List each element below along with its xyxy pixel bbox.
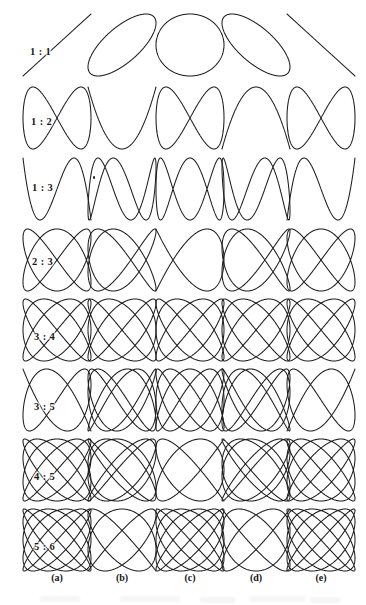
lissajous-curve <box>286 157 356 221</box>
lissajous-cell-r5-b <box>87 298 157 362</box>
lissajous-curve <box>155 508 225 572</box>
ratio-label: 5 : 6 <box>34 541 55 552</box>
curve-path <box>222 158 290 220</box>
lissajous-curve <box>155 228 225 292</box>
curve-path <box>156 229 224 291</box>
lissajous-cell-r7-e <box>286 438 356 502</box>
column-label-b: (b) <box>102 572 142 583</box>
lissajous-cell-r8-c <box>155 508 225 572</box>
ratio-label: 4 : 5 <box>34 471 55 482</box>
curve-path <box>156 299 224 361</box>
lissajous-cell-r1-b <box>87 13 157 77</box>
curve-path <box>222 14 290 76</box>
curve-path <box>156 87 224 149</box>
lissajous-cell-r3-b <box>87 157 157 221</box>
lissajous-curve <box>87 508 157 572</box>
curve-path <box>88 87 156 149</box>
lissajous-cell-r4-b <box>87 228 157 292</box>
lissajous-curve <box>22 298 92 362</box>
curve-path <box>222 229 290 291</box>
curve-path <box>287 369 355 431</box>
curve-path <box>88 509 156 571</box>
page-edge-smudge <box>120 596 180 602</box>
lissajous-curve <box>155 157 225 221</box>
curve-path <box>88 369 156 431</box>
curve-path <box>222 87 290 149</box>
ratio-label: 2 : 3 <box>32 256 53 267</box>
curve-path <box>222 509 290 571</box>
column-label-a: (a) <box>37 572 77 583</box>
curve-path <box>88 299 156 361</box>
lissajous-cell-r7-a <box>22 438 92 502</box>
curve-path <box>287 87 355 149</box>
lissajous-curve <box>155 86 225 150</box>
scan-speck <box>93 176 95 179</box>
lissajous-curve <box>221 508 291 572</box>
lissajous-cell-r6-d <box>221 368 291 432</box>
curve-path <box>88 14 156 76</box>
curve-path <box>287 158 355 220</box>
lissajous-curve <box>221 298 291 362</box>
ratio-label: 3 : 4 <box>34 331 55 342</box>
ratio-label: 1 : 3 <box>32 182 53 193</box>
curve-path <box>23 299 91 361</box>
ratio-label: 1 : 2 <box>31 116 52 127</box>
lissajous-cell-r5-c <box>155 298 225 362</box>
lissajous-plate: 1 : 11 : 21 : 32 : 33 : 43 : 54 : 55 : 6… <box>0 0 366 605</box>
lissajous-curve <box>22 438 92 502</box>
curve-path <box>88 229 156 291</box>
lissajous-curve <box>87 228 157 292</box>
lissajous-curve <box>22 508 92 572</box>
lissajous-curve <box>87 13 157 77</box>
lissajous-cell-r7-b <box>87 438 157 502</box>
lissajous-cell-r2-b <box>87 86 157 150</box>
lissajous-cell-r5-d <box>221 298 291 362</box>
lissajous-cell-r3-c <box>155 157 225 221</box>
lissajous-curve <box>87 438 157 502</box>
lissajous-cell-r1-a <box>22 13 92 77</box>
lissajous-curve <box>221 13 291 77</box>
lissajous-curve <box>87 298 157 362</box>
lissajous-curve <box>286 228 356 292</box>
column-label-c: (c) <box>170 572 210 583</box>
lissajous-cell-r8-b <box>87 508 157 572</box>
lissajous-curve <box>286 86 356 150</box>
lissajous-curve <box>155 368 225 432</box>
lissajous-curve <box>221 368 291 432</box>
lissajous-cell-r8-e <box>286 508 356 572</box>
lissajous-curve <box>87 157 157 221</box>
lissajous-cell-r8-a <box>22 508 92 572</box>
column-label-d: (d) <box>236 572 276 583</box>
curve-path <box>156 158 224 220</box>
lissajous-curve <box>155 438 225 502</box>
lissajous-cell-r6-a <box>22 368 92 432</box>
curve-path <box>287 439 355 501</box>
lissajous-cell-r1-c <box>155 13 225 77</box>
page-edge-smudge <box>40 596 80 602</box>
curve-path <box>287 299 355 361</box>
lissajous-curve <box>286 368 356 432</box>
lissajous-cell-r8-d <box>221 508 291 572</box>
lissajous-cell-r4-c <box>155 228 225 292</box>
lissajous-cell-r3-e <box>286 157 356 221</box>
curve-path <box>222 299 290 361</box>
curve-path <box>287 509 355 571</box>
lissajous-curve <box>155 298 225 362</box>
lissajous-curve <box>87 86 157 150</box>
ratio-label: 3 : 5 <box>34 401 55 412</box>
lissajous-cell-r2-e <box>286 86 356 150</box>
lissajous-cell-r2-c <box>155 86 225 150</box>
page-edge-smudge <box>310 597 340 603</box>
lissajous-curve <box>155 13 225 77</box>
lissajous-cell-r7-d <box>221 438 291 502</box>
lissajous-curve <box>22 368 92 432</box>
curve-path <box>88 158 156 220</box>
curve-path <box>88 439 156 501</box>
curve-path <box>23 439 91 501</box>
lissajous-curve <box>221 438 291 502</box>
lissajous-cell-r4-e <box>286 228 356 292</box>
lissajous-curve <box>286 438 356 502</box>
lissajous-cell-r5-e <box>286 298 356 362</box>
lissajous-curve <box>221 157 291 221</box>
curve-path <box>222 439 290 501</box>
